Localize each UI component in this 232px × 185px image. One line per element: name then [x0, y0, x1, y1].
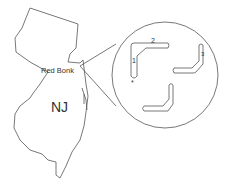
leader-line-bottom — [80, 66, 116, 106]
inset-shape-1 — [131, 43, 169, 78]
location-label: Red Bonk — [41, 66, 74, 75]
leader-line-top — [80, 44, 116, 66]
inset-circle — [112, 22, 218, 128]
inset-label-3: 3 — [201, 51, 205, 57]
diagram-canvas: Red Bonk NJ 1 2 3 * — [0, 0, 232, 185]
nj-state-outline — [14, 8, 88, 178]
inset-label-1: 1 — [132, 57, 136, 64]
state-label: NJ — [51, 99, 68, 115]
inset-shape-bottom — [143, 84, 174, 112]
barnegat-bay-line — [82, 88, 87, 110]
inset-label-2: 2 — [151, 37, 155, 44]
inset-marker: * — [131, 79, 134, 86]
inset-shape-3 — [173, 44, 203, 73]
